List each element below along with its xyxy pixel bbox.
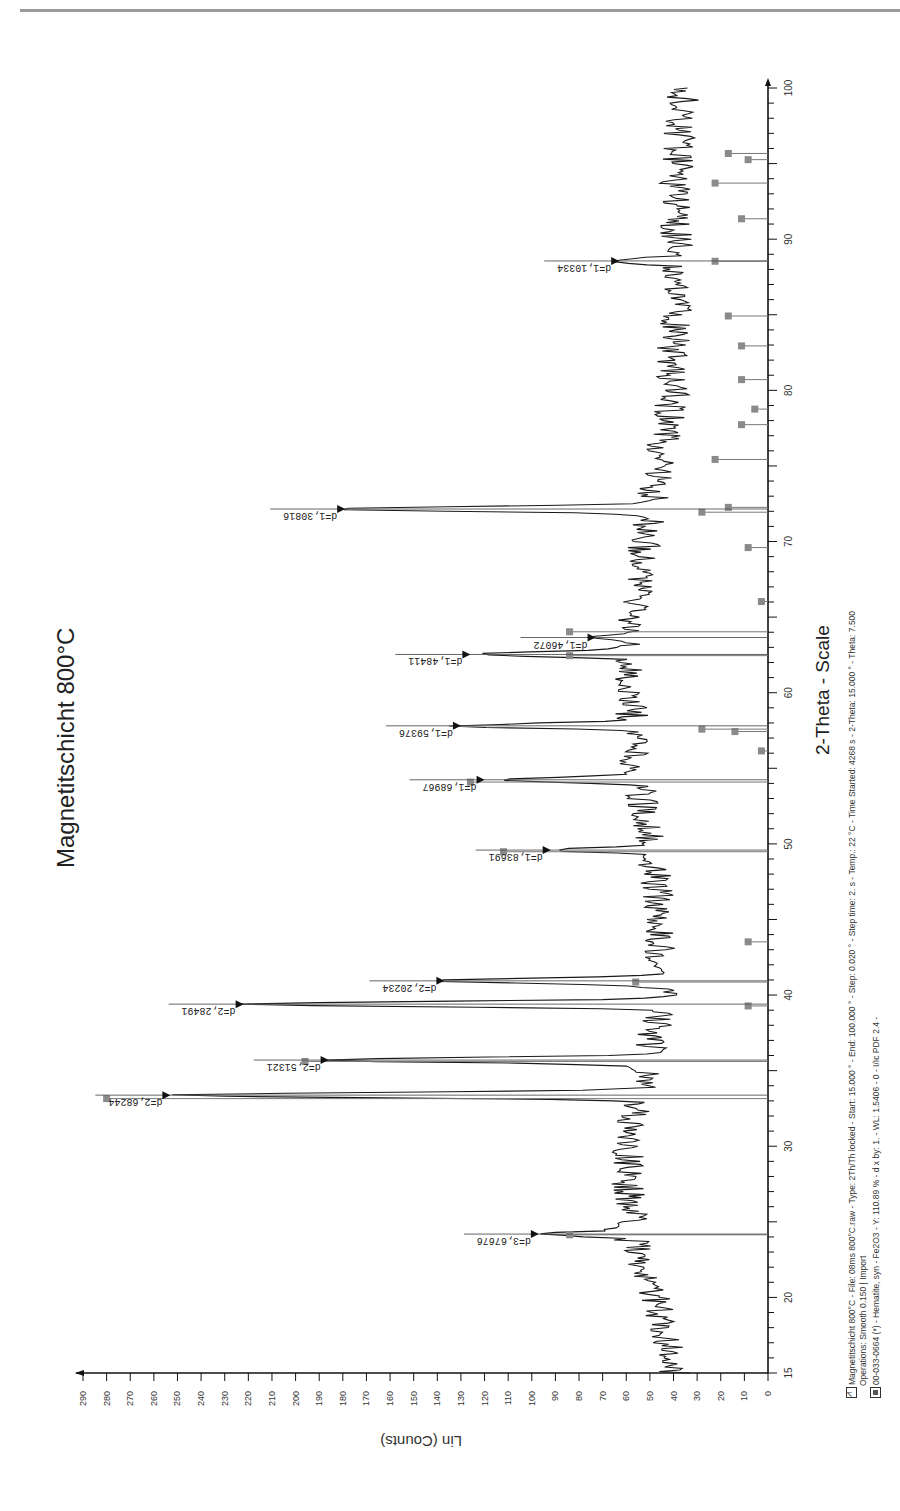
peak-arrow-icon xyxy=(611,257,619,265)
reference-marker-icon xyxy=(738,421,745,428)
x-tick-label: 30 xyxy=(783,1140,794,1152)
y-tick-label: 120 xyxy=(480,1391,490,1406)
peak-d-label: d=1,59376 xyxy=(399,727,453,738)
y-tick-label: 180 xyxy=(338,1391,348,1406)
legend-reference-text: 00-033-0664 (*) - Hematite, syn - Fe2O3 … xyxy=(871,1017,881,1385)
x-tick-label: 80 xyxy=(783,384,794,396)
y-tick-label: 160 xyxy=(385,1391,395,1406)
reference-marker-icon xyxy=(751,406,758,413)
peak-arrow-icon xyxy=(436,977,444,985)
y-tick-label: 40 xyxy=(669,1391,679,1401)
x-tick-label: 90 xyxy=(783,233,794,245)
peak-d-label: d=1,10334 xyxy=(557,262,611,273)
peak-arrow-icon xyxy=(453,722,461,730)
reference-marker-icon xyxy=(698,509,705,516)
reference-marker-icon xyxy=(725,150,732,157)
y-tick-label: 190 xyxy=(314,1391,324,1406)
y-tick-label: 50 xyxy=(645,1391,655,1401)
y-tick-label: 10 xyxy=(739,1391,749,1401)
y-tick-label: 110 xyxy=(503,1391,513,1405)
peak-d-label: d=2,68244 xyxy=(108,1096,162,1107)
peak-d-label: d=1,46072 xyxy=(534,639,588,650)
peak-d-label: d=2,51321 xyxy=(267,1061,321,1072)
reference-marker-icon xyxy=(698,726,705,733)
x-tick-label: 100 xyxy=(783,79,794,96)
peak-d-label: d=1,48411 xyxy=(408,655,462,666)
x-tick-label: 70 xyxy=(783,536,794,548)
y-tick-label: 250 xyxy=(172,1391,182,1406)
peak-arrow-icon xyxy=(321,1056,329,1064)
reference-marker-icon xyxy=(745,938,752,945)
peak-d-label: d=1,68967 xyxy=(423,781,477,792)
peak-arrow-icon xyxy=(531,1230,539,1238)
x-tick-label: 60 xyxy=(783,687,794,699)
peak-arrow-icon xyxy=(337,505,345,513)
peak-d-label: d=1,83691 xyxy=(489,851,543,862)
x-tick-label: 15 xyxy=(783,1367,794,1379)
y-tick-label: 170 xyxy=(361,1391,371,1406)
peak-d-label: d=2,28491 xyxy=(182,1005,236,1016)
reference-marker-icon xyxy=(566,1231,573,1238)
reference-marker-icon xyxy=(725,504,732,511)
x-tick-label: 20 xyxy=(783,1291,794,1303)
y-tick-label: 200 xyxy=(291,1391,301,1406)
y-tick-label: 130 xyxy=(456,1391,466,1406)
reference-marker-icon xyxy=(738,376,745,383)
y-tick-label: 240 xyxy=(196,1391,206,1406)
x-tick-label: 40 xyxy=(783,989,794,1001)
peak-arrow-icon xyxy=(543,846,551,854)
reference-marker-icon xyxy=(725,312,732,319)
peak-d-label: d=3,67676 xyxy=(477,1235,531,1246)
x-tick-label: 50 xyxy=(783,838,794,850)
legend-pattern-text: Magnetitschicht 800°C - File: 08ms 800°C… xyxy=(847,611,857,1385)
y-tick-label: 230 xyxy=(220,1391,230,1406)
y-tick-label: 210 xyxy=(267,1391,277,1406)
reference-marker-icon xyxy=(712,180,719,187)
y-tick-label: 290 xyxy=(78,1391,88,1406)
reference-marker-icon xyxy=(632,979,639,986)
x-axis-arrow-icon xyxy=(765,78,771,86)
peak-arrow-icon xyxy=(462,650,470,658)
legend-line-pattern: Magnetitschicht 800°C - File: 08ms 800°C… xyxy=(846,611,857,1398)
reference-marker-icon xyxy=(566,628,573,635)
y-tick-label: 80 xyxy=(574,1391,584,1401)
reference-marker-icon xyxy=(758,747,765,754)
reference-marker-icon xyxy=(745,156,752,163)
y-tick-label: 20 xyxy=(716,1391,726,1401)
y-tick-label: 30 xyxy=(692,1391,702,1401)
y-tick-label: 90 xyxy=(550,1391,560,1401)
reference-marker-icon xyxy=(738,342,745,349)
y-tick-label: 0 xyxy=(763,1391,773,1396)
reference-icon xyxy=(870,1387,881,1398)
y-axis-label: Lin (Counts) xyxy=(380,1433,462,1450)
peak-d-label: d=1,30816 xyxy=(283,510,337,521)
legend-line-reference: 00-033-0664 (*) - Hematite, syn - Fe2O3 … xyxy=(870,1017,881,1398)
y-tick-label: 280 xyxy=(102,1391,112,1406)
y-tick-label: 270 xyxy=(125,1391,135,1406)
reference-marker-icon xyxy=(758,598,765,605)
y-tick-label: 60 xyxy=(621,1391,631,1401)
legend-operations-text: Operations: Smooth 0.150 | Import xyxy=(858,1256,868,1386)
y-tick-label: 150 xyxy=(409,1391,419,1406)
y-tick-label: 100 xyxy=(527,1391,537,1406)
y-tick-label: 260 xyxy=(149,1391,159,1406)
reference-marker-icon xyxy=(745,1002,752,1009)
y-tick-label: 70 xyxy=(598,1391,608,1401)
reference-marker-icon xyxy=(566,652,573,659)
peak-arrow-icon xyxy=(588,634,596,642)
y-tick-label: 220 xyxy=(243,1391,253,1406)
pattern-icon xyxy=(846,1387,857,1398)
legend-line-operations: Operations: Smooth 0.150 | Import xyxy=(858,1256,868,1386)
peak-arrow-icon xyxy=(477,776,485,784)
peak-d-label: d=2,20234 xyxy=(382,982,436,993)
reference-marker-icon xyxy=(712,456,719,463)
chart-title: Magnetitschicht 800°C xyxy=(52,628,80,868)
xrd-chart: 1520304050607080901000102030405060708090… xyxy=(0,0,900,1511)
x-axis-label: 2-Theta - Scale xyxy=(812,625,834,755)
reference-marker-icon xyxy=(738,215,745,222)
peak-arrow-icon xyxy=(162,1091,170,1099)
peak-arrow-icon xyxy=(236,1000,244,1008)
reference-marker-icon xyxy=(745,544,752,551)
y-tick-label: 140 xyxy=(432,1391,442,1406)
